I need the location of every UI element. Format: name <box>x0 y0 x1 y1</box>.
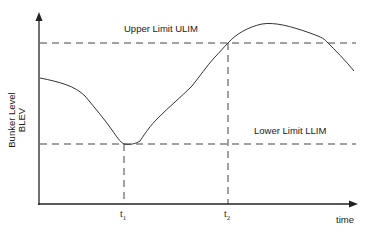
upper-limit-label: Upper Limit ULIM <box>124 23 198 34</box>
y-axis-arrow-icon <box>36 12 43 21</box>
y-axis-label-line2: BLEV <box>17 92 27 147</box>
y-axis-label: Bunker Level BLEV <box>2 60 32 180</box>
t2-label: t2 <box>224 208 230 222</box>
x-axis-label: time <box>336 214 354 225</box>
t1-label: t1 <box>120 208 126 222</box>
x-axis-arrow-icon <box>349 201 358 208</box>
lower-limit-label: Lower Limit LLIM <box>254 125 326 136</box>
bunker-level-diagram <box>0 0 367 232</box>
